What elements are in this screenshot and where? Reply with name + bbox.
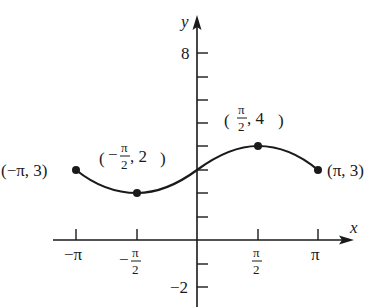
point-pi [314, 166, 322, 174]
svg-text:−: − [108, 145, 118, 164]
point-label-neg-half-pi: ( − π 2 , 2 ) [99, 140, 166, 172]
svg-text:(: ( [224, 111, 230, 130]
x-tick-label-half-pi: π 2 [252, 245, 262, 277]
svg-text:, 4: , 4 [247, 109, 265, 128]
point-half-pi [254, 142, 262, 150]
svg-text:π: π [238, 102, 245, 117]
x-axis-label: x [349, 218, 358, 237]
svg-text:2: 2 [253, 262, 260, 277]
svg-text:π: π [253, 245, 260, 260]
svg-text:2: 2 [132, 262, 139, 277]
point-label-neg-pi: (−π, 3) [1, 161, 48, 180]
svg-text:2: 2 [238, 119, 245, 134]
y-axis-label: y [179, 12, 189, 31]
svg-text:π: π [121, 140, 128, 155]
chart: y x 8 −2 −π − π 2 π 2 π (−π, 3) (π, 3) (… [0, 0, 383, 307]
y-tick-label-neg2: −2 [170, 278, 188, 297]
y-tick-label-8: 8 [181, 44, 190, 63]
svg-text:): ) [160, 149, 166, 168]
svg-text:(: ( [99, 149, 105, 168]
x-tick-label-neg-half-pi: − π 2 [119, 245, 141, 277]
point-label-half-pi: ( π 2 , 4 ) [224, 102, 284, 134]
svg-text:2: 2 [121, 157, 128, 172]
point-label-pi: (π, 3) [327, 161, 364, 180]
point-neg-pi [72, 166, 80, 174]
svg-text:−: − [119, 250, 129, 269]
svg-text:, 2: , 2 [130, 147, 147, 166]
svg-text:): ) [278, 111, 284, 130]
x-tick-label-pi: π [311, 245, 320, 264]
x-tick-label-neg-pi: −π [64, 245, 83, 264]
svg-text:π: π [132, 245, 139, 260]
point-neg-half-pi [133, 189, 141, 197]
